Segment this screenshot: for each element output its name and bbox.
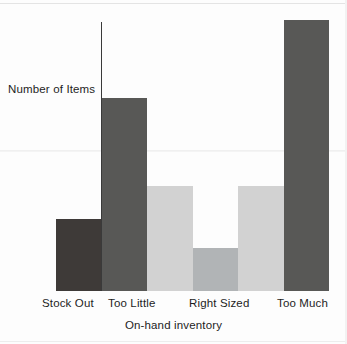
x-tick-label-stock-out: Stock Out	[42, 297, 94, 309]
x-tick-label-right-sized: Right Sized	[189, 297, 249, 309]
bar-too-much	[284, 20, 330, 291]
bar-mid-left-light	[147, 186, 193, 291]
x-tick-label-too-little: Too Little	[108, 297, 156, 309]
x-tick-label-too-much: Too Much	[277, 297, 328, 309]
plot-area: Number of Items Stock Out Too Little Rig…	[0, 0, 347, 344]
x-axis-label: On-hand inventory	[0, 319, 347, 331]
bar-mid-right-light	[238, 186, 284, 291]
y-axis-label: Number of Items	[8, 83, 95, 95]
bar-too-little	[102, 98, 148, 291]
bar-chart-figure: Number of Items Stock Out Too Little Rig…	[0, 0, 347, 344]
bar-stock-out	[56, 219, 102, 291]
bar-right-sized	[193, 248, 239, 291]
y-axis-line	[101, 22, 102, 291]
